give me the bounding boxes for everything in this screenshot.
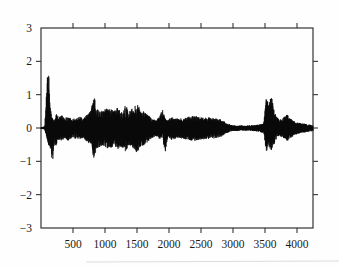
- x-tick-label: 2000: [158, 238, 181, 250]
- x-axis-tick-labels: 5001000150020002500300035004000: [64, 238, 308, 250]
- figure-container: 3210−1−2−3 50010001500200025003000350040…: [0, 0, 339, 268]
- seismogram-chart: 3210−1−2−3 50010001500200025003000350040…: [0, 0, 339, 268]
- x-tick-label: 3500: [254, 238, 277, 250]
- y-tick-label: −1: [20, 155, 32, 167]
- y-tick-label: 0: [26, 122, 32, 134]
- y-tick-label: 3: [26, 22, 32, 34]
- x-tick-label: 4000: [286, 238, 309, 250]
- y-axis-ticks: [36, 61, 41, 194]
- x-tick-label: 500: [64, 238, 82, 250]
- right-axis-ticks: [313, 61, 318, 194]
- x-tick-label: 3000: [222, 238, 245, 250]
- x-tick-label: 2500: [190, 238, 213, 250]
- x-axis-ticks: [73, 228, 297, 233]
- x-tick-label: 1000: [94, 238, 117, 250]
- x-tick-label: 1500: [126, 238, 149, 250]
- top-axis-ticks: [73, 23, 297, 28]
- y-tick-label: −2: [20, 189, 32, 201]
- y-axis-tick-labels: 3210−1−2−3: [20, 22, 33, 234]
- y-tick-label: −3: [20, 222, 32, 234]
- scan-artifact-line: [86, 261, 339, 262]
- y-tick-label: 2: [26, 55, 32, 67]
- signal-waveform: [41, 76, 313, 159]
- y-tick-label: 1: [26, 89, 32, 101]
